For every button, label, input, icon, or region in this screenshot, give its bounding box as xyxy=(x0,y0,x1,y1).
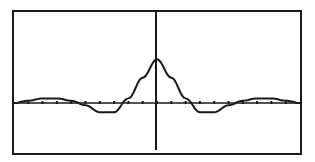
graph-screen xyxy=(0,0,315,162)
